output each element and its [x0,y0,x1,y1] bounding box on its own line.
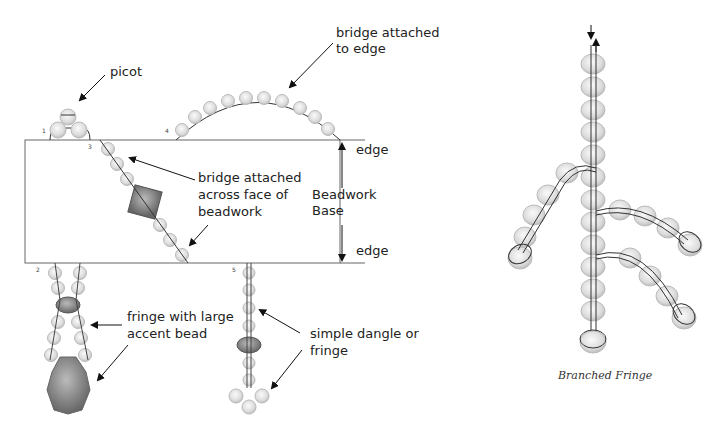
picot-beads [50,109,90,140]
num-1: 1 [42,127,46,134]
simple-dangle [229,263,269,414]
num-5: 5 [232,266,236,273]
beadwork-base [25,140,340,263]
accent-fringe [45,263,92,414]
label-base-1: Beadwork [312,187,377,202]
label-base-2: Base [312,203,344,218]
label-dangle-2: fringe [310,343,348,358]
branched-fringe [505,25,705,353]
edge-bridge-beads [176,92,341,141]
label-bridge-edge-2: to edge [336,41,386,56]
label-bridge-face-2: across face of [198,187,289,202]
caption-branched-fringe: Branched Fringe [557,369,653,382]
num-2: 2 [36,266,40,273]
label-edge-bottom: edge [356,243,389,258]
label-bridge-edge-1: bridge attached [336,25,440,40]
label-bridge-face-1: bridge attached [198,170,302,185]
face-bridge-beads [100,140,189,263]
label-picot: picot [110,64,142,79]
label-bridge-face-3: beadwork [198,204,262,219]
num-4: 4 [165,127,169,134]
label-fringe-accent-2: accent bead [127,326,207,341]
beadwork-diagram: 1 picot 4 bridge attached to edge 3 brid… [0,0,722,428]
num-3: 3 [88,143,92,150]
label-edge-top: edge [356,142,389,157]
label-dangle-1: simple dangle or [310,326,419,341]
label-fringe-accent-1: fringe with large [127,309,234,324]
